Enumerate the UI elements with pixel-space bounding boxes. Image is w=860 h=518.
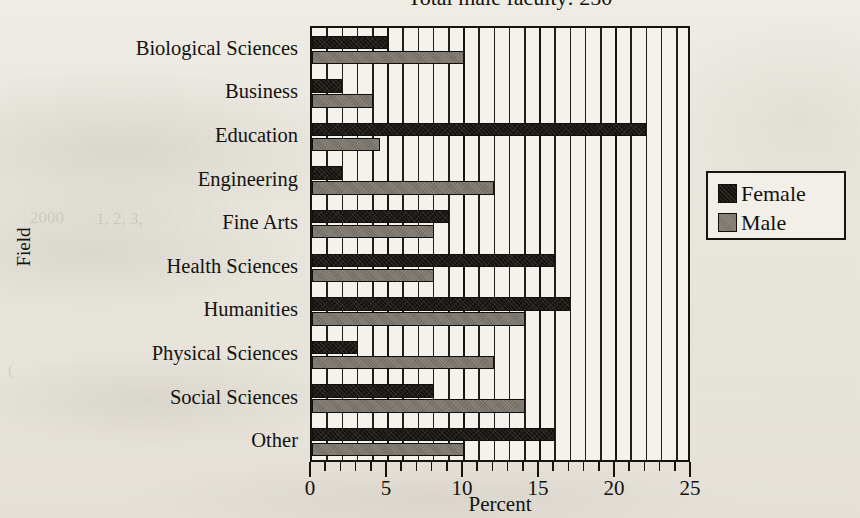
bar-group bbox=[312, 290, 688, 334]
legend-item: Male bbox=[718, 208, 844, 237]
bar-fill bbox=[312, 79, 342, 93]
bar-male bbox=[312, 356, 494, 370]
y-axis-label: Business bbox=[20, 81, 298, 102]
bar-fill bbox=[312, 399, 525, 413]
y-axis-label: Other bbox=[20, 430, 298, 451]
bar-female bbox=[312, 79, 342, 93]
x-axis-major-tick bbox=[689, 462, 691, 477]
bar-rows bbox=[312, 28, 688, 460]
bar-fill bbox=[312, 123, 646, 137]
x-axis-minor-tick bbox=[644, 462, 646, 471]
x-axis-title: Percent bbox=[310, 492, 690, 517]
legend-swatch-female bbox=[718, 184, 737, 203]
x-axis-major-tick bbox=[461, 462, 463, 477]
bar-male bbox=[312, 312, 525, 326]
bar-fill bbox=[312, 384, 434, 398]
bar-group bbox=[312, 115, 688, 159]
x-axis-minor-tick bbox=[370, 462, 372, 471]
bar-female bbox=[312, 428, 555, 442]
bar-male bbox=[312, 399, 525, 413]
bar-fill bbox=[312, 225, 434, 239]
plot-area bbox=[310, 26, 690, 462]
x-axis-minor-tick bbox=[340, 462, 342, 471]
bar-male bbox=[312, 138, 380, 152]
bar-fill bbox=[312, 210, 449, 224]
bar-fill bbox=[312, 297, 570, 311]
y-axis-label: Humanities bbox=[20, 299, 298, 320]
x-axis-minor-tick bbox=[324, 462, 326, 471]
bar-fill bbox=[312, 356, 494, 370]
bar-fill bbox=[312, 51, 464, 65]
bar-female bbox=[312, 210, 449, 224]
bar-female bbox=[312, 123, 646, 137]
x-axis-minor-tick bbox=[598, 462, 600, 471]
x-axis-major-tick bbox=[613, 462, 615, 477]
bar-female bbox=[312, 297, 570, 311]
bar-female bbox=[312, 36, 388, 50]
bar-group bbox=[312, 420, 688, 464]
x-axis-minor-tick bbox=[522, 462, 524, 471]
x-axis-minor-tick bbox=[476, 462, 478, 471]
bar-male bbox=[312, 443, 464, 457]
bar-female bbox=[312, 166, 342, 180]
x-axis-minor-tick bbox=[507, 462, 509, 471]
bar-fill bbox=[312, 254, 555, 268]
y-axis-tick-labels: Biological SciencesBusinessEducationEngi… bbox=[20, 26, 298, 462]
x-axis: 0510152025 bbox=[310, 462, 690, 463]
y-axis-label: Social Sciences bbox=[20, 387, 298, 408]
x-axis-minor-tick bbox=[552, 462, 554, 471]
x-axis-minor-tick bbox=[355, 462, 357, 471]
legend-item: Female bbox=[718, 179, 844, 208]
bar-chart: Total male faculty: 250 Field Biological… bbox=[0, 0, 860, 518]
bar-group bbox=[312, 72, 688, 116]
y-axis-label: Physical Sciences bbox=[20, 343, 298, 364]
x-axis-major-tick bbox=[385, 462, 387, 477]
bar-fill bbox=[312, 269, 434, 283]
x-axis-major-tick bbox=[537, 462, 539, 477]
bar-group bbox=[312, 159, 688, 203]
bar-group bbox=[312, 377, 688, 421]
bar-male bbox=[312, 181, 494, 195]
x-axis-major-tick bbox=[309, 462, 311, 477]
y-axis-label: Fine Arts bbox=[20, 212, 298, 233]
legend: Female Male bbox=[706, 171, 846, 240]
bar-group bbox=[312, 202, 688, 246]
legend-swatch-male bbox=[718, 213, 737, 232]
bar-fill bbox=[312, 341, 358, 355]
bar-female bbox=[312, 341, 358, 355]
x-axis-minor-tick bbox=[446, 462, 448, 471]
bar-group bbox=[312, 28, 688, 72]
bar-fill bbox=[312, 312, 525, 326]
x-axis-minor-tick bbox=[400, 462, 402, 471]
bar-fill bbox=[312, 138, 380, 152]
bar-group bbox=[312, 246, 688, 290]
bar-male bbox=[312, 269, 434, 283]
x-axis-minor-tick bbox=[674, 462, 676, 471]
y-axis-label: Biological Sciences bbox=[20, 38, 298, 59]
bar-fill bbox=[312, 443, 464, 457]
bar-female bbox=[312, 254, 555, 268]
bar-fill bbox=[312, 166, 342, 180]
legend-label-female: Female bbox=[741, 183, 806, 205]
x-axis-minor-tick bbox=[492, 462, 494, 471]
y-axis-label: Engineering bbox=[20, 169, 298, 190]
bar-male bbox=[312, 225, 434, 239]
bar-female bbox=[312, 384, 434, 398]
bar-fill bbox=[312, 428, 555, 442]
bar-group bbox=[312, 333, 688, 377]
y-axis-label: Education bbox=[20, 125, 298, 146]
bar-male bbox=[312, 94, 373, 108]
bar-fill bbox=[312, 181, 494, 195]
x-axis-minor-tick bbox=[568, 462, 570, 471]
x-axis-minor-tick bbox=[628, 462, 630, 471]
bar-fill bbox=[312, 94, 373, 108]
chart-title: Total male faculty: 250 bbox=[310, 0, 710, 11]
x-axis-minor-tick bbox=[416, 462, 418, 471]
x-axis-minor-tick bbox=[583, 462, 585, 471]
x-axis-minor-tick bbox=[659, 462, 661, 471]
x-axis-minor-tick bbox=[431, 462, 433, 471]
bar-fill bbox=[312, 36, 388, 50]
bar-male bbox=[312, 51, 464, 65]
legend-label-male: Male bbox=[741, 212, 786, 234]
y-axis-label: Health Sciences bbox=[20, 256, 298, 277]
